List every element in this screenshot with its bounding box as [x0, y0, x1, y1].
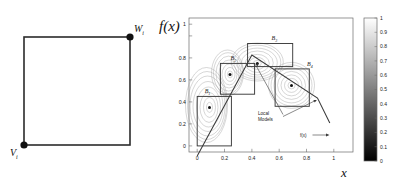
colorbar-tick-7: 0.4: [380, 101, 387, 107]
colorbar-tick-labels: 1 0.9 0.8 0.7 0.6 0.5 0.4 0.3 0.2 0.1 0: [380, 15, 387, 164]
colorbar-tick-9: 0.2: [380, 129, 387, 135]
y-tick-2: 0.4: [179, 99, 186, 105]
local-models-contour-plot: f(x) x: [155, 0, 405, 184]
y-axis-label: f(x): [159, 18, 180, 35]
colorbar-tick-10: 0.1: [380, 144, 387, 150]
x-tick-2: 0.4: [248, 155, 255, 161]
x-tick-4: 0.8: [303, 155, 310, 161]
x-axis-tick-labels: 0 0.2 0.4 0.6 0.8 1: [196, 155, 336, 161]
x-tick-3: 0.6: [276, 155, 283, 161]
y-tick-3: 0.6: [179, 77, 186, 83]
colorbar-tick-5: 0.6: [380, 72, 387, 78]
local-models-label-line2: Models: [258, 117, 274, 122]
y-tick-4: 0.8: [179, 55, 186, 61]
center-b1: [208, 106, 211, 109]
y-tick-5: 1: [183, 21, 186, 27]
center-b4: [290, 84, 293, 87]
vertex-w-marker: [126, 33, 133, 40]
vertex-v-label: Vi: [10, 147, 18, 160]
x-tick-1: 0.2: [221, 155, 228, 161]
colorbar: 1 0.9 0.8 0.7 0.6 0.5 0.4 0.3 0.2 0.1 0: [364, 15, 387, 164]
vertex-v-subscript: i: [16, 154, 18, 160]
y-tick-0: 0: [183, 143, 186, 149]
center-b2: [229, 73, 232, 76]
interval-box-diagram: Vi Wi: [0, 0, 155, 184]
colorbar-tick-2: 0.9: [380, 29, 387, 35]
fx-annotation-label: f(x): [300, 133, 307, 138]
vertex-w-label: Wi: [134, 23, 144, 36]
colorbar-tick-4: 0.7: [380, 58, 387, 64]
vertex-w-subscript: i: [142, 30, 144, 36]
colorbar-tick-11: 0: [380, 158, 383, 164]
x-tick-0: 0: [196, 155, 199, 161]
vertex-v-marker: [20, 141, 27, 148]
colorbar-tick-8: 0.3: [380, 115, 387, 121]
interval-rectangle: [24, 37, 130, 145]
local-models-label-line1: Local: [258, 111, 269, 116]
figure-root: Vi Wi f(x) x: [0, 0, 405, 184]
colorbar-tick-3: 0.8: [380, 43, 387, 49]
left-panel-canvas: Vi Wi: [0, 0, 155, 184]
x-tick-5: 1: [332, 155, 335, 161]
right-panel-canvas: f(x) x: [155, 0, 405, 184]
colorbar-tick-1: 1: [380, 15, 383, 21]
y-axis-tick-labels: 0 0.2 0.4 0.6 0.8 1: [179, 21, 186, 149]
y-tick-1: 0.2: [179, 121, 186, 127]
x-axis-label: x: [340, 165, 347, 180]
colorbar-tick-6: 0.5: [380, 86, 387, 92]
